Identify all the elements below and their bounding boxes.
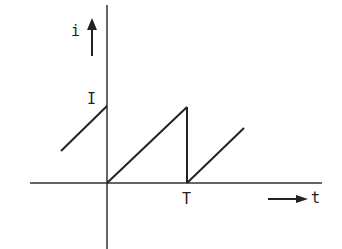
x-direction-arrow-icon <box>268 195 308 203</box>
y-direction-arrow-icon <box>87 18 97 56</box>
y-axis-label: i <box>71 24 80 39</box>
peak-label: I <box>87 92 96 107</box>
sawtooth-diagram: i I T t <box>0 0 342 249</box>
waveform-graphic <box>0 0 342 249</box>
period-label: T <box>182 192 191 207</box>
sawtooth-waveform <box>61 106 244 183</box>
x-axis-label: t <box>311 191 320 206</box>
